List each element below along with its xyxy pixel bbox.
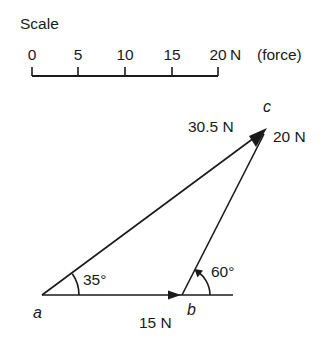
- angle-label-a: 35°: [83, 271, 106, 288]
- point-label-b: b: [187, 301, 196, 318]
- arrowhead-ab-icon: [168, 291, 181, 300]
- vector-triangle: 35° 60° 15 N 20 N 30.5 N a b c: [33, 98, 306, 331]
- scale-tick-label-5: 5: [74, 46, 83, 63]
- scale-unit-label: N: [230, 46, 241, 63]
- vector-triangle-diagram: Scale 0 5 10 15 20 N (force): [0, 0, 335, 348]
- angle-arc-a: [72, 274, 79, 295]
- scale-group: Scale 0 5 10 15 20 N (force): [20, 15, 302, 76]
- scale-tick-label-15: 15: [163, 46, 180, 63]
- scale-tick-label-0: 0: [28, 46, 37, 63]
- vector-ab-label: 15 N: [139, 314, 172, 331]
- scale-quantity-label: (force): [257, 46, 302, 63]
- diagram-canvas: Scale 0 5 10 15 20 N (force): [0, 0, 335, 348]
- point-label-a: a: [33, 304, 42, 321]
- scale-title: Scale: [20, 15, 59, 32]
- point-label-c: c: [263, 98, 271, 115]
- vector-ac-label: 30.5 N: [188, 118, 234, 135]
- scale-tick-label-20: 20: [209, 46, 227, 63]
- scale-tick-label-10: 10: [116, 46, 134, 63]
- angle-label-b: 60°: [211, 263, 234, 280]
- vector-bc-label: 20 N: [273, 128, 306, 145]
